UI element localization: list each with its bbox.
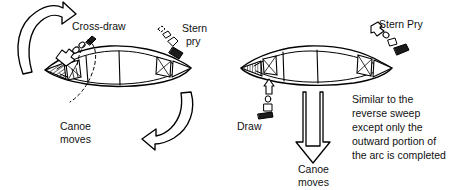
label-left-canoe-moves-line2: moves [60,133,91,145]
label-stern-pry-line2: pry [186,35,201,47]
label-right-canoe-moves-line2: moves [298,176,329,188]
label-draw: Draw [237,120,262,132]
label-stern-pry-line1: Stern [182,22,207,34]
right-draw-paddle [258,79,274,119]
diagram-canvas: Cross-draw Stern pry Canoe moves Stern P… [0,0,467,190]
note-line-3: except only the [352,121,423,135]
note-line-1: Similar to the [352,93,413,107]
left-bottom-curved-arrow [142,92,193,150]
left-canoe-stern-seat [156,57,171,77]
label-stern-pry: Stern Pry [379,18,423,30]
note-line-5: the arc is completed [352,149,446,163]
label-right-canoe-moves-line1: Canoe [298,163,329,175]
right-canoe-hull [241,46,392,86]
label-cross-draw: Cross-draw [72,20,126,32]
right-canoe-bow-seat [263,56,277,75]
note-line-4: outward portion of [352,135,436,149]
right-canoe-stern-seat [357,55,372,76]
note-line-2: reverse sweep [352,107,420,121]
label-left-canoe-moves-line1: Canoe [60,120,91,132]
right-down-arrow [296,92,330,163]
